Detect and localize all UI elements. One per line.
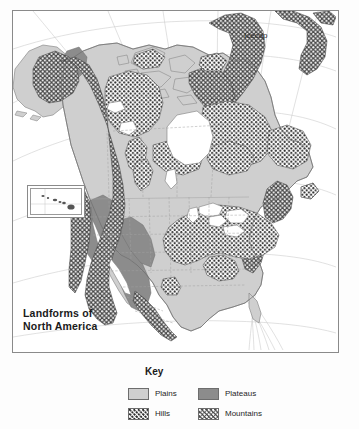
hawaii-inset bbox=[27, 185, 85, 218]
mountains-swatch bbox=[198, 408, 219, 420]
map-frame: Icecap Landforms of North America bbox=[12, 10, 339, 353]
key-row: Hills Mountains bbox=[128, 405, 343, 422]
plateaus-swatch bbox=[198, 388, 219, 400]
key-item-mountains: Mountains bbox=[198, 408, 268, 420]
north-america-map bbox=[13, 11, 336, 350]
key-label-mountains: Mountains bbox=[225, 409, 262, 418]
map-key: Key Plains Plateaus Hills bbox=[0, 360, 359, 429]
hills-swatch bbox=[128, 408, 149, 420]
landform-map-page: Icecap Landforms of North America Key Pl… bbox=[0, 0, 359, 429]
icecap-label: Icecap bbox=[244, 31, 268, 40]
page-title: Landforms of North America bbox=[23, 307, 98, 333]
key-item-plains: Plains bbox=[128, 388, 198, 400]
key-item-hills: Hills bbox=[128, 408, 198, 420]
key-items: Plains Plateaus Hills Mountains bbox=[128, 385, 343, 425]
key-title: Key bbox=[145, 366, 163, 377]
plains-swatch bbox=[128, 388, 149, 400]
key-label-plateaus: Plateaus bbox=[225, 389, 256, 398]
key-label-plains: Plains bbox=[155, 389, 177, 398]
key-row: Plains Plateaus bbox=[128, 385, 343, 402]
key-label-hills: Hills bbox=[155, 409, 170, 418]
key-item-plateaus: Plateaus bbox=[198, 388, 268, 400]
hawaii-islands bbox=[28, 186, 84, 217]
